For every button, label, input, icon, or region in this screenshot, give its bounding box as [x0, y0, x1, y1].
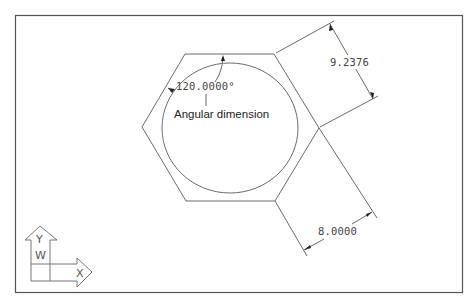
extension-line	[320, 96, 378, 127]
ucs-icon: Y W X	[25, 226, 92, 287]
drawing-canvas[interactable]: 9.2376 8.0000 120.0000° Angular dimensio…	[0, 0, 474, 306]
angular-dimension-label: Angular dimension	[174, 108, 269, 120]
extension-line	[276, 21, 334, 53]
arrowhead-icon	[221, 55, 225, 61]
ucs-w-label: W	[35, 249, 46, 262]
dimension-text: 8.0000	[318, 225, 357, 237]
arrowhead-icon	[366, 212, 372, 217]
ucs-x-label: X	[76, 267, 84, 280]
extension-line	[319, 128, 377, 218]
dimension-text: 120.0000°	[176, 80, 235, 92]
angular-dimension[interactable]: 120.0000°	[168, 55, 235, 93]
dimension-8-0000[interactable]: 8.0000	[275, 128, 377, 256]
dimension-9-2376[interactable]: 9.2376	[276, 21, 378, 127]
dimension-arc	[215, 58, 223, 82]
hexagon-shape[interactable]	[142, 54, 319, 201]
dimension-text: 9.2376	[330, 56, 369, 68]
extension-line	[275, 201, 307, 256]
arrowhead-icon	[304, 245, 311, 250]
ucs-y-label: Y	[35, 233, 43, 246]
drawing-frame	[16, 16, 463, 293]
